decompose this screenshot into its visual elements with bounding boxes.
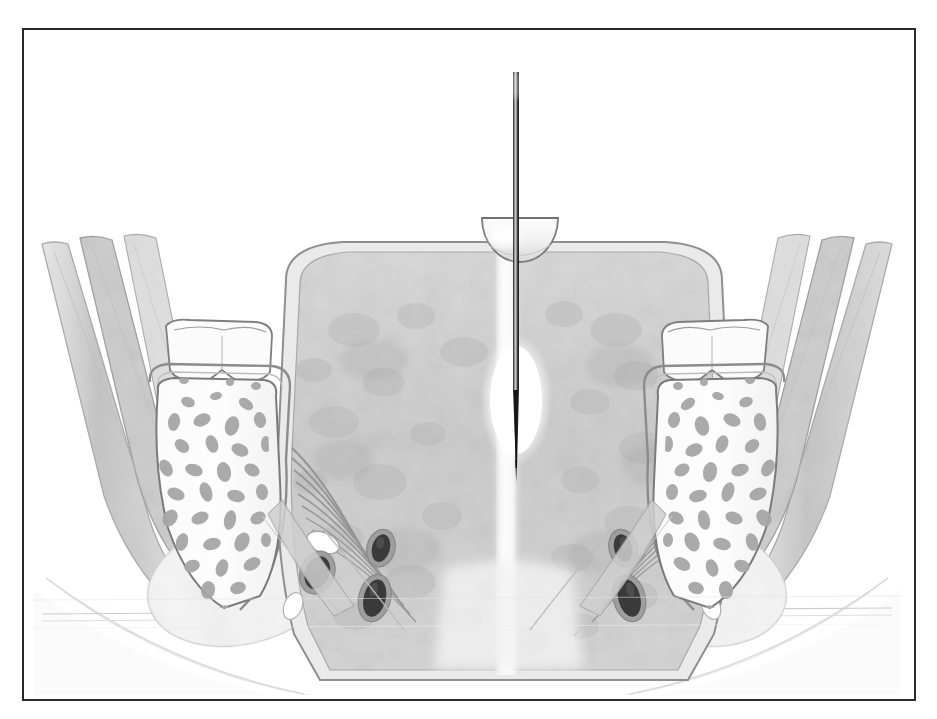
illustration-frame [22,28,916,701]
anal-canal-lumen [434,560,584,670]
anatomy-diagram [24,30,910,695]
illustration-stage [0,0,937,719]
needle-highlight [515,72,516,390]
